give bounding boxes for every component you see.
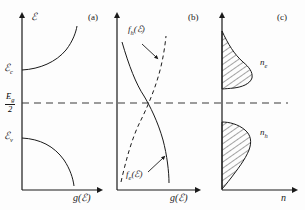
hole-concentration-shape [222,122,251,189]
electron-occupation-label-arg: (ℰ) [131,169,142,179]
hole-occupation-curve [121,36,166,182]
panel-b-dos-axis-label: g(ℰ) [170,193,188,203]
hole-occupation-curve-label: fh(ℰ) [128,25,145,36]
conduction-band-edge-subscript: c [10,68,13,75]
electron-occupation-curve-label: fe(ℰ) [126,170,142,181]
panel-c-carrier-axis-label: n [281,193,286,203]
hole-curve-pointer-arrow [142,44,156,57]
conduction-band-edge-label: ℰc [4,63,13,76]
half-gap-numerator-subscript: g [11,96,14,103]
half-gap-fraction-label: Eg 2 [5,92,15,113]
half-gap-denominator: 2 [5,105,15,114]
half-gap-numerator: Eg [5,92,15,105]
valence-band-dos-curve [22,138,74,186]
diagram-canvas [0,0,305,210]
hole-concentration-label: nh [260,128,268,139]
valence-band-edge-label: ℰv [4,131,13,144]
panel-b-tag: (b) [188,13,199,22]
hole-concentration-label-subscript: h [265,132,268,139]
panel-a-energy-axis-label: ℰ [31,12,37,22]
panel-c-tag: (c) [277,13,287,22]
conduction-band-dos-curve [22,26,77,70]
electron-concentration-shape [222,31,252,89]
electron-concentration-label-subscript: e [265,62,268,69]
figure-container: ℰ (a) ℰc ℰv Eg 2 g(ℰ) (b) fh(ℰ) fe(ℰ) g(… [0,0,305,210]
hole-occupation-label-arg: (ℰ) [134,24,145,34]
electron-concentration-label: ne [260,58,267,69]
electron-curve-pointer-arrow [148,158,163,172]
valence-band-edge-subscript: v [10,136,13,143]
panel-b-curves [121,36,169,183]
panel-a-curves [22,26,77,186]
panel-c-distributions [222,31,252,189]
panel-a-tag: (a) [88,13,98,22]
panel-a-dos-axis-label: g(ℰ) [73,193,91,203]
